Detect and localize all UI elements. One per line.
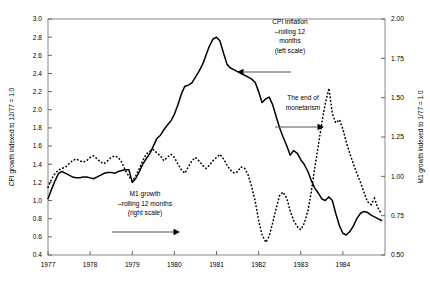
y-left-tick-2.6: 2.6 (33, 52, 42, 59)
m1-annotation-line: M1 growth (130, 190, 161, 198)
y-left-tick-0.8: 0.8 (33, 215, 42, 222)
y-right-tick-1.25: 1.25 (391, 133, 404, 140)
cpi-annotation-line: (left scale) (275, 47, 305, 55)
y-left-tick-1.2: 1.2 (33, 179, 42, 186)
y-right-tick-1.50: 1.50 (391, 94, 404, 101)
x-tick-label-1982: 1982 (251, 261, 266, 268)
y-left-tick-2.8: 2.8 (33, 34, 42, 41)
monetarism-annotation-line: monetarism (286, 104, 321, 111)
y-right-tick-2.00: 2.00 (391, 15, 404, 22)
m1-annotation-line: (right scale) (128, 209, 162, 217)
y-axis-right-title: M1 growth indexed to 1/77 = 1.0 (417, 90, 425, 183)
x-tick-label-1981: 1981 (209, 261, 224, 268)
y-left-tick-0.4: 0.4 (33, 251, 42, 258)
x-tick-label-1984: 1984 (336, 261, 351, 268)
y-left-tick-1.8: 1.8 (33, 124, 42, 131)
y-left-tick-2.4: 2.4 (33, 70, 42, 77)
y-axis-left-title: CPI growth indexed to 12/77 = 1.0 (8, 87, 16, 186)
x-tick-label-1980: 1980 (167, 261, 182, 268)
y-right-tick-1.75: 1.75 (391, 55, 404, 62)
y-right-tick-1.00: 1.00 (391, 173, 404, 180)
y-left-tick-2.0: 2.0 (33, 106, 42, 113)
y-right-tick-0.75: 0.75 (391, 212, 404, 219)
y-axis-right-label: M1 growth indexed to 1/77 = 1.0 (417, 90, 425, 183)
m1-annotation-line: –rolling 12 months (118, 200, 173, 208)
y-left-tick-1.0: 1.0 (33, 197, 42, 204)
x-tick-label-1979: 1979 (125, 261, 140, 268)
y-axis-left-label: CPI growth indexed to 12/77 = 1.0 (8, 87, 16, 186)
y-left-tick-2.2: 2.2 (33, 88, 42, 95)
cpi-annotation-line: CPI inflation (272, 18, 308, 25)
monetarism-annotation-line: The end of (287, 94, 319, 101)
cpi-annotation-line: months (279, 37, 301, 44)
x-tick-label-1978: 1978 (83, 261, 98, 268)
economic-line-chart: 19771978197919801981198219831984 0.40.60… (0, 0, 430, 282)
x-tick-label-1977: 1977 (41, 261, 56, 268)
chart-background (0, 0, 430, 282)
y-left-tick-3.0: 3.0 (33, 15, 42, 22)
y-right-tick-0.50: 0.50 (391, 251, 404, 258)
y-left-tick-1.6: 1.6 (33, 142, 42, 149)
y-left-tick-0.6: 0.6 (33, 233, 42, 240)
x-tick-label-1983: 1983 (293, 261, 308, 268)
cpi-annotation-line: –rolling 12 (275, 28, 306, 36)
y-left-tick-1.4: 1.4 (33, 161, 42, 168)
chart-container: 19771978197919801981198219831984 0.40.60… (0, 0, 430, 282)
